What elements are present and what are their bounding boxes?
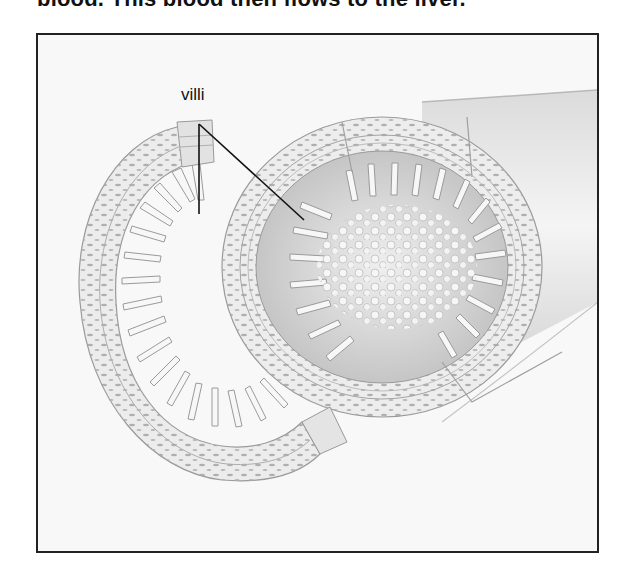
- villi-label: villi: [181, 85, 205, 105]
- intestine-illustration: [38, 35, 597, 551]
- body-text-line: blood. This blood then flows to the live…: [37, 0, 466, 12]
- figure-frame: villi: [36, 33, 599, 553]
